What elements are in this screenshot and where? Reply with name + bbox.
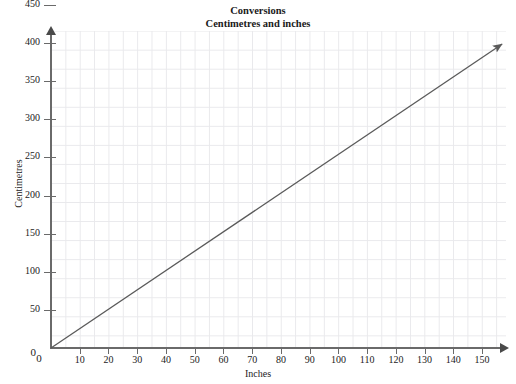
y-tick-label: 50 <box>0 304 40 314</box>
y-tick-label: 400 <box>0 37 40 47</box>
y-tick-label: 100 <box>0 266 40 276</box>
y-tick-label: 300 <box>0 113 40 123</box>
x-axis-arrow-icon <box>500 343 509 353</box>
chart-title: Conversions <box>0 5 516 18</box>
y-tick-mark <box>44 43 56 44</box>
y-tick-mark <box>44 310 56 311</box>
y-tick-mark <box>44 272 56 273</box>
x-tick-label: 150 <box>462 354 502 365</box>
y-tick-mark <box>44 234 56 235</box>
y-tick-mark <box>44 81 56 82</box>
chart-subtitle: Centimetres and inches <box>0 18 516 31</box>
x-tick-label: 0 <box>31 352 47 364</box>
chart-root: Conversions Centimetres and inches 05010… <box>0 0 516 384</box>
y-axis-arrow-icon <box>46 26 56 35</box>
y-tick-mark <box>44 119 56 120</box>
y-tick-label: 450 <box>0 0 40 9</box>
x-axis-title: Inches <box>0 368 516 379</box>
y-tick-label: 350 <box>0 75 40 85</box>
y-tick-mark <box>44 157 56 158</box>
y-axis-title: Centimetres <box>13 139 24 229</box>
y-tick-mark <box>44 196 56 197</box>
y-tick-mark <box>44 5 56 6</box>
x-axis-line <box>51 347 505 349</box>
plot-grid <box>51 31 506 348</box>
y-tick-label: 150 <box>0 228 40 238</box>
